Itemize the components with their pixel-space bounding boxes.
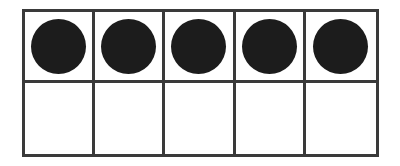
counter-dot[interactable] [31, 19, 86, 74]
ten-frame-cell-r2c1[interactable] [25, 83, 95, 154]
ten-frame-cell-r1c1[interactable] [25, 12, 95, 83]
ten-frame-cell-r2c3[interactable] [165, 83, 235, 154]
ten-frame-grid [22, 9, 379, 157]
counter-dot[interactable] [313, 19, 368, 74]
ten-frame-cell-r1c3[interactable] [165, 12, 235, 83]
counter-dot[interactable] [242, 19, 297, 74]
counter-dot[interactable] [171, 19, 226, 74]
counter-dot[interactable] [101, 19, 156, 74]
ten-frame-cell-r1c4[interactable] [236, 12, 306, 83]
ten-frame-cell-r2c5[interactable] [306, 83, 376, 154]
ten-frame-figure: Ten frame with five filled counters [0, 0, 400, 166]
ten-frame-cell-r2c2[interactable] [95, 83, 165, 154]
ten-frame-cell-r1c2[interactable] [95, 12, 165, 83]
ten-frame-cell-r1c5[interactable] [306, 12, 376, 83]
ten-frame-cell-r2c4[interactable] [236, 83, 306, 154]
